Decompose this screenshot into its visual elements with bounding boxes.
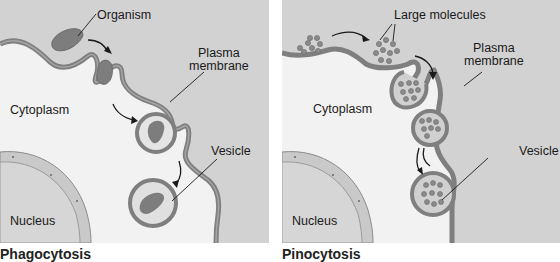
plasma-membrane-label: Plasma membrane (189, 47, 249, 73)
phagocytosis-caption: Phagocytosis (0, 247, 91, 261)
phagocytosis-panel: Organism Plasma membrane Cytoplasm Vesic… (0, 0, 269, 243)
nucleus-label: Nucleus (292, 215, 337, 228)
vesicle-label: Vesicle (211, 145, 251, 158)
cytoplasm-label: Cytoplasm (10, 104, 69, 117)
pinocytosis-caption: Pinocytosis (282, 247, 361, 261)
pinocytosis-panel: Large molecules Plasma membrane Cytoplas… (282, 0, 560, 243)
organism-label: Organism (97, 9, 151, 22)
phagocytosis-illustration (0, 0, 269, 243)
vesicle-label: Vesicle (519, 145, 559, 158)
nucleus-label: Nucleus (10, 215, 55, 228)
large-molecules-label: Large molecules (394, 9, 486, 22)
plasma-membrane-label: Plasma membrane (464, 42, 524, 68)
organism-engulfing (97, 60, 113, 84)
pinocytosis-illustration (282, 0, 560, 243)
cytoplasm-label: Cytoplasm (313, 103, 372, 116)
